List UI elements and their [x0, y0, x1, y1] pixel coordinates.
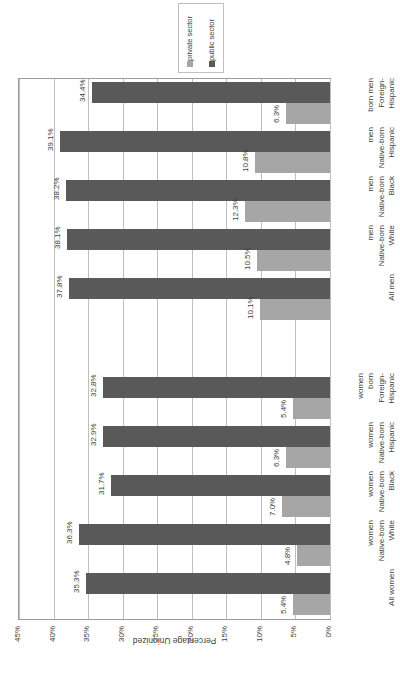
- bar-private-sector: [260, 299, 330, 320]
- bar-private-sector: [282, 496, 330, 517]
- category-label-line: Native-born: [377, 520, 386, 561]
- plot-area: 34.4%6.3%39.1%10.8%38.2%12.3%38.1%10.5%3…: [18, 78, 331, 620]
- bar-public-sector: [79, 524, 330, 545]
- bar-public-sector: [66, 180, 330, 201]
- category-label-line: men: [366, 176, 375, 192]
- category-label-line: women: [356, 373, 365, 399]
- bar-public-sector: [60, 131, 330, 152]
- bar-public-sector: [92, 82, 330, 103]
- bar-value-label: 6.3%: [273, 448, 281, 467]
- category-label-line: Native-born: [377, 127, 386, 168]
- category-label-line: Black: [387, 176, 396, 196]
- category-label-line: Native-born: [377, 176, 386, 217]
- bar-private-sector: [245, 201, 330, 222]
- category-label-line: Native-born: [377, 422, 386, 463]
- category-label-line: Native-born: [377, 471, 386, 512]
- chart-legend: public sectorprivate sector: [178, 3, 224, 73]
- bar-private-sector: [293, 594, 330, 615]
- category-label-line: men: [366, 127, 375, 143]
- category-label-line: born: [366, 373, 375, 389]
- category-label-line: women: [366, 471, 375, 497]
- bar-public-sector: [67, 229, 330, 250]
- category-label: BlackNative-bornwomen: [334, 471, 396, 520]
- bar-value-label: 37.8%: [56, 279, 64, 298]
- bar-value-label: 32.9%: [90, 427, 98, 446]
- bar-private-sector: [293, 398, 330, 419]
- bar-value-label: 5.4%: [280, 595, 288, 614]
- bar-private-sector: [255, 152, 330, 173]
- legend-label: private sector: [186, 16, 194, 61]
- category-label: All men: [334, 274, 396, 323]
- category-label: All women: [334, 569, 396, 618]
- bar-private-sector: [257, 250, 330, 271]
- bar-public-sector: [103, 377, 330, 398]
- bar-value-label: 5.4%: [280, 399, 288, 418]
- category-label-line: Black: [387, 471, 396, 491]
- bar-value-label: 12.3%: [232, 202, 240, 221]
- bar-public-sector: [86, 573, 330, 594]
- legend-swatch-icon: [209, 61, 215, 67]
- bar-public-sector: [103, 426, 330, 447]
- bar-value-label: 39.1%: [47, 132, 55, 151]
- category-label-line: women: [366, 422, 375, 448]
- bar-private-sector: [286, 447, 330, 468]
- category-label: HispanicForeign-bornwomen: [334, 373, 396, 422]
- legend-swatch-icon: [187, 61, 193, 67]
- bar-public-sector: [69, 278, 330, 299]
- category-label-line: Foreign-: [377, 373, 386, 403]
- bar-public-sector: [111, 475, 330, 496]
- bar-value-label: 10.8%: [242, 153, 250, 172]
- legend-label: public sector: [208, 19, 216, 61]
- category-label-line: All men: [387, 274, 396, 301]
- bar-value-label: 7.0%: [269, 497, 277, 516]
- bar-value-label: 32.8%: [90, 378, 98, 397]
- legend-item-private-sector: private sector: [180, 2, 200, 74]
- category-label-line: White: [387, 520, 396, 540]
- category-label-line: women: [366, 520, 375, 546]
- bar-value-label: 38.1%: [54, 230, 62, 249]
- category-label-line: Foreign-: [377, 78, 386, 108]
- bar-value-label: 6.3%: [273, 104, 281, 123]
- gridline: [330, 79, 331, 619]
- bar-value-label: 4.8%: [284, 546, 292, 565]
- category-label-line: Hispanic: [387, 373, 396, 404]
- bar-value-label: 10.5%: [244, 251, 252, 270]
- category-label-line: Hispanic: [387, 78, 396, 109]
- bar-value-label: 35.3%: [73, 574, 81, 593]
- category-label: WhiteNative-bornmen: [334, 225, 396, 274]
- legend-item-public-sector: public sector: [202, 2, 222, 74]
- category-label: WhiteNative-bornwomen: [334, 520, 396, 569]
- category-label: BlackNative-bornmen: [334, 176, 396, 225]
- category-label-line: born men: [366, 78, 375, 112]
- bar-value-label: 10.1%: [247, 300, 255, 319]
- bar-value-label: 38.2%: [53, 181, 61, 200]
- chart-canvas: public sectorprivate sector 34.4%6.3%39.…: [0, 0, 400, 678]
- category-label: HispanicForeign-born men: [334, 78, 396, 127]
- bar-value-label: 31.7%: [98, 476, 106, 495]
- category-label-line: White: [387, 225, 396, 245]
- bar-value-label: 34.4%: [79, 83, 87, 102]
- bar-private-sector: [286, 103, 330, 124]
- category-label-line: Native-born: [377, 225, 386, 266]
- category-label-line: All women: [387, 569, 396, 606]
- category-label-line: Hispanic: [387, 422, 396, 453]
- bar-private-sector: [297, 545, 330, 566]
- category-label-line: men: [366, 225, 375, 241]
- bar-series-group: 34.4%6.3%39.1%10.8%38.2%12.3%38.1%10.5%3…: [19, 79, 330, 619]
- value-axis-title: Percentage Unionized: [0, 636, 349, 646]
- category-label-line: Hispanic: [387, 127, 396, 158]
- bar-value-label: 36.3%: [66, 525, 74, 544]
- category-label: HispanicNative-bornwomen: [334, 422, 396, 471]
- category-label: HispanicNative-bornmen: [334, 127, 396, 176]
